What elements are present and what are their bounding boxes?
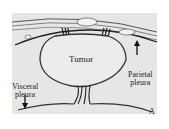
parietal-pleura-label: Parietal pleura [128,71,152,87]
figure-labels: Tumor Parietal pleura Visceral pleura A [12,13,157,114]
visceral-pleura-label: Visceral pleura [12,83,38,99]
parietal-label-line2: pleura [128,79,152,87]
visceral-label-line2: pleura [12,91,38,99]
panel-label: A [149,108,155,114]
tumor-label: Tumor [69,55,93,63]
